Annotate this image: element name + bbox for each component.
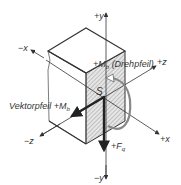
minus-z-arrow [40, 124, 60, 136]
minus-x-arrow [31, 50, 44, 58]
label-vector-moment: Vektorpfeil +Mb [9, 102, 70, 112]
label-plus-z: +z [157, 58, 167, 67]
diagram-graphics [0, 0, 181, 185]
beam-section-diagram: +y −y +z −z +x −x +Mb (Drehpfeil) Vektor… [0, 0, 181, 185]
label-rotation-moment: +Mb (Drehpfeil) [93, 60, 154, 70]
label-minus-y: −y [94, 174, 104, 183]
label-plus-x: +x [160, 135, 170, 144]
label-minus-x: −x [18, 44, 28, 53]
centroid-point [103, 96, 105, 98]
label-plus-y: +y [94, 12, 104, 21]
label-minus-z: −z [24, 137, 34, 146]
beam-block [48, 28, 125, 144]
label-centroid: S [96, 87, 103, 97]
label-shear-force: +Fq [111, 142, 125, 152]
